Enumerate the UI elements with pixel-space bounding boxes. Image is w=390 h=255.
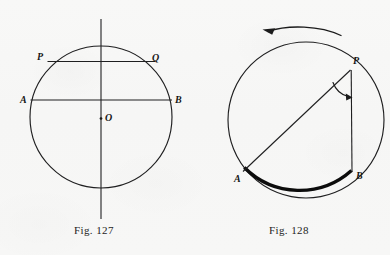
fig127-label-a: A	[20, 95, 27, 105]
fig128-angle-arc	[333, 83, 353, 101]
fig127-label-b: B	[175, 95, 182, 105]
figure-127-caption: Fig. 127	[74, 224, 114, 236]
figure-127-group	[30, 19, 172, 219]
fig127-label-q: Q	[152, 53, 159, 63]
figure-page: P Q A B O P A B Fig. 127 Fig. 128	[0, 0, 390, 255]
fig127-label-p: P	[37, 52, 43, 62]
fig128-label-p: P	[353, 56, 359, 66]
fig128-label-a: A	[234, 174, 241, 184]
fig128-rotation-arrow	[263, 27, 342, 36]
fig128-highlighted-arc-ab	[244, 168, 351, 191]
fig127-label-o: O	[105, 113, 112, 123]
geometry-figures-canvas	[0, 0, 390, 255]
fig128-chord-pb	[351, 70, 352, 172]
fig128-label-b: B	[356, 171, 363, 181]
figure-128-caption: Fig. 128	[269, 224, 309, 236]
fig127-center-dot	[100, 117, 103, 120]
